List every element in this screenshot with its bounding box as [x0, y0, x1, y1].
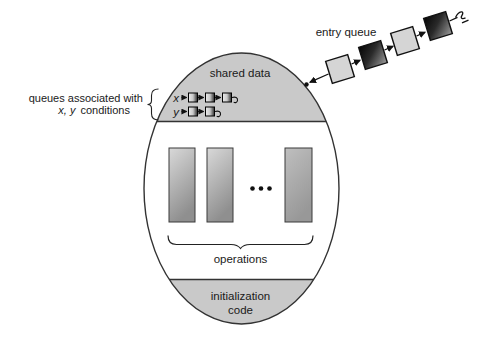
caption-variables: x, y	[57, 104, 77, 116]
entry-queue-attach-dot	[304, 82, 308, 86]
queue-node	[206, 107, 215, 116]
initialization-label-line2: code	[228, 304, 253, 316]
initialization-label-line1: initialization	[211, 290, 270, 302]
entry-queue-label: entry queue	[316, 26, 377, 38]
monitor-diagram-canvas: shared data x y queues associated with x…	[0, 0, 487, 340]
ellipsis-dot	[250, 186, 255, 191]
operation-bar-2	[207, 148, 233, 222]
operation-bar-3	[285, 148, 312, 222]
queue-node	[189, 107, 198, 116]
queue-node	[206, 93, 215, 102]
operations-label: operations	[214, 253, 268, 265]
ellipsis-dot	[267, 186, 272, 191]
ellipsis-dot	[259, 186, 264, 191]
condition-queues-caption-line2: x, y conditions	[57, 104, 130, 116]
queue-node	[189, 93, 198, 102]
condition-queues-caption-line1: queues associated with	[29, 92, 143, 104]
queue-node	[223, 93, 232, 102]
operation-bar-1	[169, 148, 195, 222]
operations-ellipsis	[250, 186, 272, 191]
shared-data-label: shared data	[210, 67, 271, 79]
caption-rest: conditions	[80, 104, 130, 116]
